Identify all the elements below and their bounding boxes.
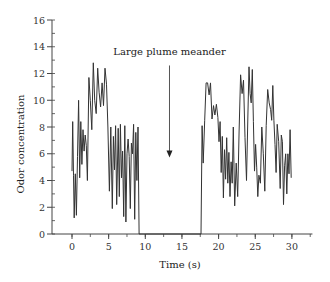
y-tick-label: 16 [33, 15, 45, 26]
y-tick-label: 14 [33, 41, 45, 52]
y-tick-label: 8 [39, 122, 45, 133]
x-tick-label: 20 [213, 241, 225, 252]
y-tick-label: 10 [33, 95, 45, 106]
y-tick-label: 6 [39, 148, 45, 159]
plot-series [72, 63, 291, 234]
x-axis: 051015202530 [52, 234, 312, 252]
x-tick-label: 30 [286, 241, 298, 252]
y-tick-label: 4 [39, 175, 45, 186]
x-tick-label: 25 [249, 241, 261, 252]
x-tick-label: 0 [69, 241, 75, 252]
annotation: Large plume meander [113, 46, 226, 157]
x-tick-label: 5 [106, 241, 112, 252]
y-tick-label: 0 [39, 229, 45, 240]
line-chart: 0246810121416 051015202530 Large plume m… [0, 0, 330, 282]
arrow-down-icon [166, 150, 172, 157]
y-axis: 0246810121416 [33, 15, 55, 240]
y-tick-label: 2 [39, 202, 45, 213]
annotation-text: Large plume meander [113, 46, 226, 57]
y-tick-label: 12 [33, 68, 45, 79]
x-axis-label: Time (s) [159, 259, 200, 270]
x-tick-label: 15 [176, 241, 188, 252]
odor-trace [72, 63, 291, 234]
x-tick-label: 10 [139, 241, 151, 252]
y-axis-label: Odor concentration [15, 94, 26, 194]
